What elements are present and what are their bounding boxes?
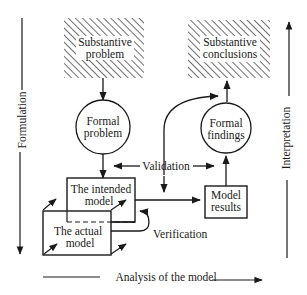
formal-problem-line1: Formal xyxy=(86,115,119,127)
formal-problem-line2: problem xyxy=(84,127,122,140)
substantive-conclusions-line1: Substantive xyxy=(203,36,257,48)
actual-model-line2: model xyxy=(66,237,95,249)
actual-model-line1: The actual xyxy=(54,225,102,237)
intended-model-line2: model xyxy=(85,195,114,207)
substantive-conclusions-node: Substantive conclusions xyxy=(188,20,270,78)
formal-problem-node: Formal problem xyxy=(76,100,130,154)
formal-findings-node: Formal findings xyxy=(201,103,251,153)
corner-arrow-bottom-right xyxy=(111,244,126,254)
model-results-node: Model results xyxy=(205,186,247,218)
model-results-line2: results xyxy=(211,201,242,213)
substantive-conclusions-line2: conclusions xyxy=(203,48,258,60)
model-results-line1: Model xyxy=(211,189,241,201)
formulation-axis-label: Formulation xyxy=(16,91,28,148)
corner-arrow-top-left xyxy=(43,199,56,210)
verification-label: Verification xyxy=(153,228,208,240)
substantive-problem-line2: problem xyxy=(86,48,124,61)
formal-findings-line2: findings xyxy=(207,129,245,142)
analysis-axis-label: Analysis of the model xyxy=(115,271,216,284)
formal-findings-line1: Formal xyxy=(209,117,242,129)
substantive-problem-line1: Substantive xyxy=(78,36,132,48)
interpretation-axis-label: Interpretation xyxy=(280,106,293,169)
modeling-process-diagram: Substantive problem Formal problem Subst… xyxy=(0,0,307,295)
intended-model-line1: The intended xyxy=(71,183,132,195)
validation-label: Validation xyxy=(142,160,190,172)
substantive-problem-node: Substantive problem xyxy=(64,18,144,78)
